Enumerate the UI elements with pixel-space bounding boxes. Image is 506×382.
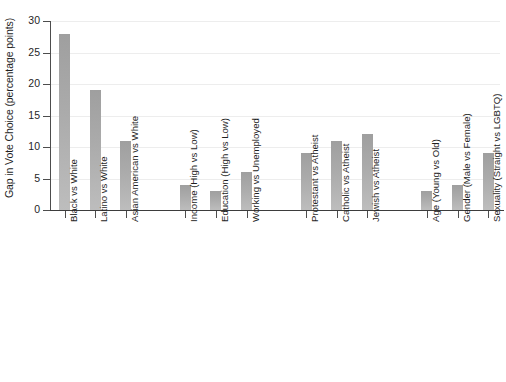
y-axis-tick-label: 10 [18, 141, 40, 152]
x-axis-tick-mark [185, 211, 186, 218]
y-axis-title: Gap in Vote Choice (percentage points) [0, 0, 18, 215]
y-axis-tick-label: 20 [18, 78, 40, 89]
x-axis-tick-mark [367, 211, 368, 218]
y-axis-tick-mark [43, 179, 50, 180]
x-axis-tick-mark [126, 211, 127, 218]
gridline [50, 53, 500, 54]
y-axis-tick-mark [43, 53, 50, 54]
y-axis-title-text: Gap in Vote Choice (percentage points) [3, 17, 15, 197]
x-axis-tick-mark [306, 211, 307, 218]
x-axis-tick-mark [458, 211, 459, 218]
x-axis-tick-mark [247, 211, 248, 218]
y-axis-tick-label: 0 [18, 204, 40, 215]
y-axis-tick-mark [43, 116, 50, 117]
gridline [50, 116, 500, 117]
y-axis-tick-label: 25 [18, 47, 40, 58]
y-axis-tick-mark [43, 21, 50, 22]
y-axis-tick-mark [43, 84, 50, 85]
y-axis-tick-label: 30 [18, 15, 40, 26]
y-axis-line [50, 21, 51, 211]
y-axis-tick-mark [43, 147, 50, 148]
x-axis-tick-mark [427, 211, 428, 218]
gridline [50, 21, 500, 22]
y-axis-tick-mark [43, 210, 50, 211]
y-axis-tick-label: 5 [18, 173, 40, 184]
y-axis-tick-label: 15 [18, 110, 40, 121]
x-axis-tick-mark [65, 211, 66, 218]
x-axis-tick-mark [216, 211, 217, 218]
bar-chart-figure: Gap in Vote Choice (percentage points) 0… [0, 0, 506, 382]
gridline [50, 84, 500, 85]
x-axis-tick-mark [95, 211, 96, 218]
x-axis-tick-mark [337, 211, 338, 218]
x-axis-tick-mark [488, 211, 489, 218]
